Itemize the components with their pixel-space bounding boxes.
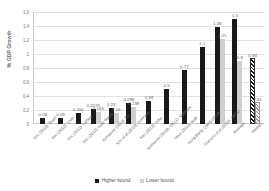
y-axis-title: % GDP Growth	[6, 14, 12, 84]
bar-value-label: 1.1	[199, 42, 205, 46]
bar-value-label: 0.16	[112, 108, 121, 112]
chart-legend: Higher boundLower bound	[0, 178, 269, 183]
x-axis-category: Kec (2012), Chile	[52, 125, 70, 177]
y-axis: 00.20.40.60.811.21.41.6	[0, 12, 31, 124]
y-axis-tick-label: 1	[27, 52, 29, 57]
y-axis-tick-label: 0.2	[23, 108, 29, 113]
x-axis-category: Average	[229, 125, 247, 177]
x-axis-category: Kec (2012), LATAM	[69, 125, 87, 177]
x-axis-category: Median	[246, 125, 264, 177]
bar-value-label: 0.77	[180, 65, 189, 69]
bar-value-label: 1.21	[218, 34, 227, 38]
bar-value-label: 1.38	[213, 22, 222, 26]
legend-item[interactable]: Higher bound	[95, 178, 130, 183]
x-axis-category: Kec (2012), Arab States	[87, 125, 105, 177]
bar-value-label: 0.5	[164, 84, 170, 88]
bar-value-label: 0.165	[93, 107, 104, 111]
x-axis-category-labels: Kec (2012), BrazilKec (2012), ChileKec (…	[34, 125, 264, 177]
bar-higher-bound[interactable]: 1.1	[200, 47, 205, 124]
x-axis-category: Nour (2019), Arab	[176, 125, 194, 177]
x-axis-category: Kec et al (2019), Germany	[122, 125, 140, 177]
bar-value-label: 1.5	[232, 14, 238, 18]
bar-group[interactable]: 0.2960.238	[122, 12, 140, 124]
gdp-growth-bar-chart: 00.20.40.60.811.21.41.6 % GDP Growth 0.0…	[0, 0, 269, 191]
y-axis-tick-label: 1.2	[23, 38, 29, 43]
legend-label: Lower bound	[146, 178, 174, 183]
bar-group[interactable]: 0.5	[158, 12, 176, 124]
legend-label: Higher bound	[102, 178, 131, 183]
bar-higher-bound[interactable]: 0.5	[164, 89, 169, 124]
bar-value-label: 0.08	[39, 113, 48, 117]
bar-group[interactable]: 1.50.9	[229, 12, 247, 124]
bar-group[interactable]: 0.940.31	[246, 12, 264, 124]
legend-item[interactable]: Lower bound	[140, 178, 174, 183]
bar-group[interactable]: 1.381.21	[211, 12, 229, 124]
y-axis-tick-label: 1.4	[23, 24, 29, 29]
x-axis-category: Hong Bang, Qiang (2018)	[193, 125, 211, 177]
bar-value-label: 0.94	[248, 54, 257, 58]
bar-value-label: 0.238	[128, 102, 139, 106]
bar-group[interactable]: 0.20750.165	[87, 12, 105, 124]
x-axis-category: Kolmanov (2019), EU	[105, 125, 123, 177]
bar-lower-bound[interactable]: 1.21	[220, 39, 225, 124]
bar-value-label: 0.33	[145, 96, 154, 100]
x-axis-category: Gianone et al (2019), OECD	[211, 125, 229, 177]
y-axis-tick-label: 0.8	[23, 66, 29, 71]
y-axis-tick-label: 0.6	[23, 80, 29, 85]
x-axis-category: Kolmanov (2019), OECD, Malaysia	[158, 125, 176, 177]
legend-swatch-icon	[140, 179, 144, 183]
bar-group[interactable]: 1.1	[193, 12, 211, 124]
bar-group[interactable]: 0.09	[52, 12, 70, 124]
y-axis-tick-label: 0	[27, 122, 29, 127]
bar-group[interactable]: 0.230.16	[105, 12, 123, 124]
y-axis-tick-label: 1.6	[23, 10, 29, 15]
bar-group[interactable]: 0.08	[34, 12, 52, 124]
bar-value-label: 0.09	[56, 113, 65, 117]
bar-value-label: 0.31	[253, 98, 262, 102]
y-axis-tick-label: 0.4	[23, 94, 29, 99]
bar-value-label: 0.9	[237, 56, 243, 60]
bar-series-container: 0.080.090.1560.20750.1650.230.160.2960.2…	[34, 12, 264, 124]
bar-group[interactable]: 0.33	[140, 12, 158, 124]
bar-value-label: 0.156	[73, 108, 84, 112]
bar-group[interactable]: 0.156	[69, 12, 87, 124]
x-axis-category: Kec (2012), Brazil	[34, 125, 52, 177]
legend-swatch-icon	[95, 179, 99, 183]
